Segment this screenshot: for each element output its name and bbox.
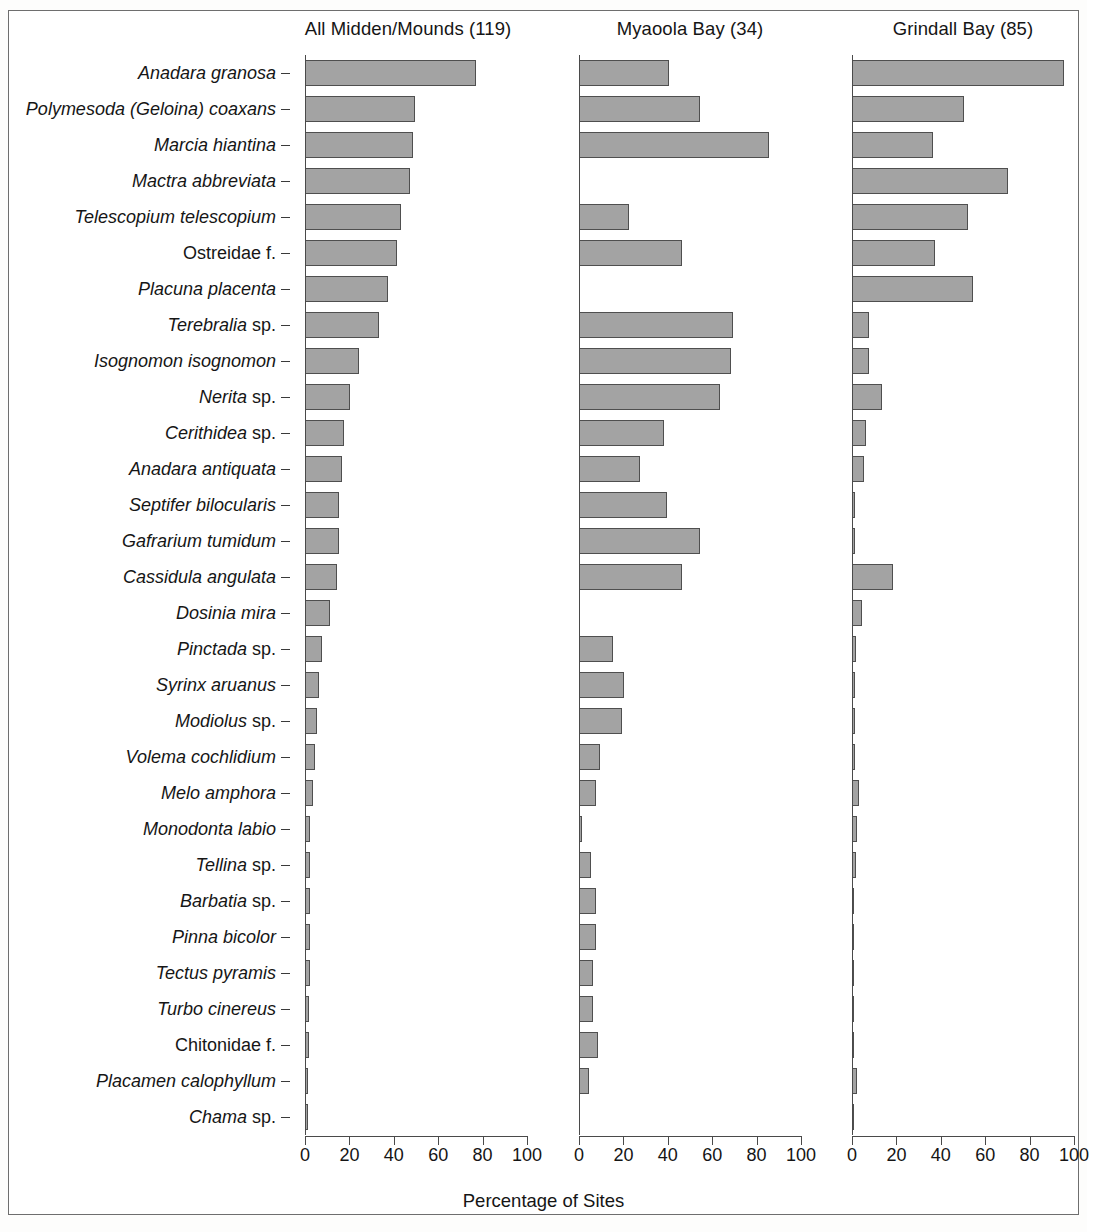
- bar: [580, 636, 613, 662]
- x-axis-tick: [527, 1136, 528, 1145]
- bar: [306, 816, 310, 842]
- species-label-text: Nerita: [199, 387, 247, 407]
- x-axis-tick: [941, 1136, 942, 1145]
- species-tick: [281, 721, 290, 722]
- species-tick: [281, 505, 290, 506]
- panel-myaoola-bay: [579, 55, 801, 1135]
- x-axis-tick-label: 60: [690, 1145, 734, 1166]
- bar: [853, 456, 864, 482]
- x-axis-tick: [438, 1136, 439, 1145]
- bar: [306, 1104, 308, 1130]
- species-tick: [281, 1045, 290, 1046]
- bar: [853, 60, 1064, 86]
- bar: [853, 132, 933, 158]
- bar: [306, 996, 309, 1022]
- bar: [853, 312, 869, 338]
- bar: [853, 924, 854, 950]
- panel3-x-axis: [852, 1136, 1075, 1137]
- bar: [580, 564, 682, 590]
- bar: [853, 708, 855, 734]
- species-label: Tellina sp.: [196, 856, 276, 874]
- x-axis-tick-label: 20: [601, 1145, 645, 1166]
- species-label-suffix: sp.: [247, 423, 276, 443]
- species-tick: [281, 145, 290, 146]
- x-axis-tick: [668, 1136, 669, 1145]
- species-label: Placuna placenta: [138, 280, 276, 298]
- species-label-text: Ostreidae f.: [183, 243, 276, 263]
- bar: [306, 204, 401, 230]
- bar: [306, 276, 388, 302]
- x-axis-tick-label: 20: [327, 1145, 371, 1166]
- bar: [853, 1032, 854, 1058]
- x-axis-tick-label: 40: [646, 1145, 690, 1166]
- bar: [580, 240, 682, 266]
- species-tick: [281, 73, 290, 74]
- bar: [853, 528, 855, 554]
- species-label-text: Polymesoda (Geloina) coaxans: [26, 99, 276, 119]
- bar: [306, 240, 397, 266]
- bar: [853, 816, 857, 842]
- species-tick: [281, 1117, 290, 1118]
- species-label-text: Terebralia: [168, 315, 247, 335]
- species-tick: [281, 1081, 290, 1082]
- bar: [853, 564, 893, 590]
- species-label: Pinna bicolor: [172, 928, 276, 946]
- bar: [853, 636, 856, 662]
- species-label-text: Cerithidea: [165, 423, 247, 443]
- bar: [580, 456, 640, 482]
- x-axis-tick-label: 20: [874, 1145, 918, 1166]
- species-tick: [281, 973, 290, 974]
- species-label-text: Marcia hiantina: [154, 135, 276, 155]
- bar: [306, 420, 344, 446]
- bar: [306, 708, 317, 734]
- x-axis-tick-label: 40: [372, 1145, 416, 1166]
- species-label-text: Pinna bicolor: [172, 927, 276, 947]
- x-axis-tick: [801, 1136, 802, 1145]
- species-label-suffix: sp.: [247, 891, 276, 911]
- x-axis-tick: [349, 1136, 350, 1145]
- species-label-text: Mactra abbreviata: [132, 171, 276, 191]
- bar: [306, 600, 330, 626]
- bar: [306, 132, 413, 158]
- bar: [580, 996, 593, 1022]
- species-label-text: Syrinx aruanus: [156, 675, 276, 695]
- species-label: Modiolus sp.: [175, 712, 276, 730]
- species-label: Monodonta labio: [143, 820, 276, 838]
- species-label-text: Turbo cinereus: [157, 999, 276, 1019]
- species-tick: [281, 1009, 290, 1010]
- bar: [853, 672, 855, 698]
- species-label-text: Septifer bilocularis: [129, 495, 276, 515]
- x-axis-tick: [483, 1136, 484, 1145]
- species-label-text: Tellina: [196, 855, 247, 875]
- species-label: Cerithidea sp.: [165, 424, 276, 442]
- bar: [306, 1068, 308, 1094]
- bar: [580, 780, 596, 806]
- species-label-text: Pinctada: [177, 639, 247, 659]
- species-label-suffix: sp.: [247, 639, 276, 659]
- bar: [580, 888, 596, 914]
- species-label: Volema cochlidium: [126, 748, 276, 766]
- x-axis-tick: [394, 1136, 395, 1145]
- x-axis-tick: [1074, 1136, 1075, 1145]
- x-axis-tick: [623, 1136, 624, 1145]
- bar: [306, 960, 310, 986]
- bar: [853, 1068, 857, 1094]
- species-label-text: Volema cochlidium: [126, 747, 276, 767]
- species-label: Turbo cinereus: [157, 1000, 276, 1018]
- species-label: Telescopium telescopium: [75, 208, 276, 226]
- x-axis-tick: [896, 1136, 897, 1145]
- panel-all-midden-mounds: [305, 55, 527, 1135]
- species-tick: [281, 937, 290, 938]
- species-label: Melo amphora: [161, 784, 276, 802]
- bar: [306, 60, 476, 86]
- species-label-text: Placuna placenta: [138, 279, 276, 299]
- species-label-text: Tectus pyramis: [156, 963, 276, 983]
- species-label-suffix: sp.: [247, 855, 276, 875]
- species-label: Chitonidae f.: [175, 1036, 276, 1054]
- x-axis-tick-label: 0: [557, 1145, 601, 1166]
- species-tick: [281, 289, 290, 290]
- bar: [306, 744, 315, 770]
- bar: [853, 204, 968, 230]
- bar: [853, 492, 855, 518]
- x-axis-tick: [985, 1136, 986, 1145]
